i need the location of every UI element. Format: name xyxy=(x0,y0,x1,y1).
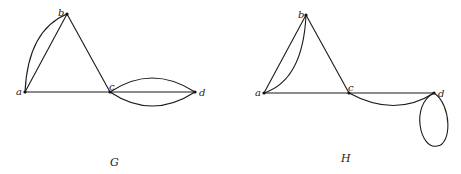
graph-label-g: G xyxy=(110,156,119,169)
edge-g-cd-upper xyxy=(110,78,195,92)
vertex-label-h-d: d xyxy=(438,88,444,99)
vertex-label-g-b: b xyxy=(58,7,64,18)
vertex-h-b xyxy=(304,13,307,16)
vertex-label-g-a: a xyxy=(16,86,22,97)
vertex-g-a xyxy=(23,90,26,93)
edge-h-dd-loop xyxy=(420,93,448,146)
graph-g: a b c d G xyxy=(16,7,205,169)
graph-label-h: H xyxy=(340,152,351,165)
graph-h: a b c d H xyxy=(255,9,448,165)
edge-h-cd-lower xyxy=(349,93,434,106)
vertex-g-b xyxy=(65,12,68,15)
edge-h-bc xyxy=(306,15,349,93)
edge-g-cd-lower xyxy=(110,92,195,106)
vertex-h-a xyxy=(262,91,265,94)
vertex-label-h-a: a xyxy=(255,87,261,98)
vertex-label-h-b: b xyxy=(298,9,304,20)
vertex-g-d xyxy=(193,90,196,93)
vertex-label-g-c: c xyxy=(109,81,115,92)
edge-g-ab-straight xyxy=(25,14,67,92)
vertex-label-h-c: c xyxy=(348,82,354,93)
graph-figure: a b c d G a b c d H xyxy=(0,0,461,174)
edge-g-bc xyxy=(67,14,110,92)
vertex-h-d xyxy=(432,91,435,94)
vertex-label-g-d: d xyxy=(199,87,205,98)
